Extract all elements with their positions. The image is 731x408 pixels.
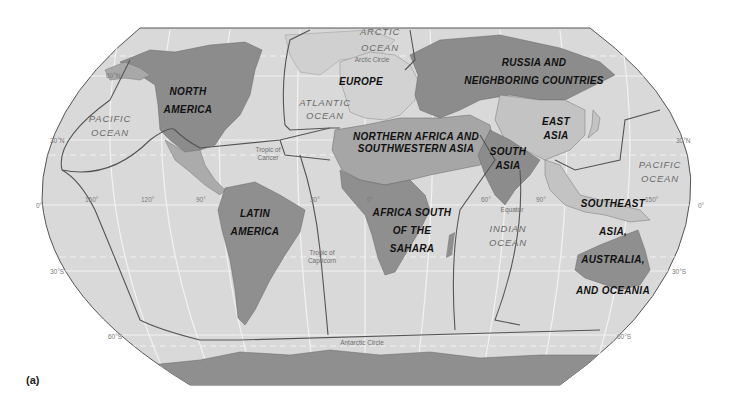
label-antarctic-circle: Antarctic Circle — [340, 339, 384, 346]
coord-30n-west: 30°N — [50, 137, 65, 144]
region-label-latin-america: LATIN — [240, 208, 271, 219]
region-label-east-asia: ASIA — [542, 130, 568, 141]
label-tropic-capricorn: Tropic of — [309, 249, 334, 257]
region-label-russia: RUSSIA AND — [502, 57, 566, 68]
region-label-seasia-oceania: AUSTRALIA, — [580, 254, 645, 265]
figure-label: (a) — [26, 374, 39, 386]
coord-90e: 90° — [536, 196, 546, 203]
coord-90w: 90° — [196, 196, 206, 203]
ocean-label-arctic: OCEAN — [361, 42, 399, 53]
coord-0-east: 0° — [698, 202, 705, 209]
ocean-label-indian: INDIAN — [490, 223, 527, 234]
region-label-seasia-oceania: ASIA, — [598, 226, 627, 237]
region-label-south-asia: ASIA — [494, 160, 520, 171]
label-equator: Equator — [501, 206, 525, 214]
region-label-nafrica-swasia: SOUTHWESTERN ASIA — [358, 143, 474, 154]
region-label-subsaharan-africa: SAHARA — [390, 243, 435, 254]
coord-60s-east: 60°S — [617, 333, 632, 340]
land-new-zealand — [660, 285, 675, 308]
region-label-east-asia: EAST — [542, 116, 570, 127]
coord-30s-west: 30°S — [50, 268, 65, 275]
world-regions-map: ARCTIC OCEAN ATLANTIC OCEAN PACIFIC OCEA… — [0, 0, 731, 408]
ocean-label-atlantic: OCEAN — [306, 110, 344, 121]
coord-30w: 30° — [310, 196, 320, 203]
label-arctic-circle: Arctic Circle — [355, 56, 390, 63]
coord-0-lon: 0° — [367, 196, 374, 203]
region-label-seasia-oceania: AND OCEANIA — [575, 285, 650, 296]
region-label-subsaharan-africa: AFRICA SOUTH — [372, 207, 452, 218]
coord-30s-east: 30°S — [672, 268, 687, 275]
region-label-latin-america: AMERICA — [230, 226, 280, 237]
region-label-nafrica-swasia: NORTHERN AFRICA AND — [353, 131, 479, 142]
ocean-label-indian: OCEAN — [489, 237, 527, 248]
land-antarctica — [150, 350, 700, 408]
coord-150w: 150° — [85, 196, 99, 203]
coord-150e: 150° — [645, 196, 659, 203]
region-label-seasia-oceania: SOUTHEAST — [581, 198, 646, 209]
region-label-europe: EUROPE — [339, 76, 383, 87]
coord-60n: 60°N — [106, 72, 121, 79]
region-label-russia: NEIGHBORING COUNTRIES — [464, 75, 604, 86]
coord-60e: 60° — [481, 196, 491, 203]
coord-120w: 120° — [141, 196, 155, 203]
ocean-label-atlantic: ATLANTIC — [298, 97, 351, 108]
label-tropic-cancer: Cancer — [258, 154, 280, 161]
ocean-label-pacific-east: OCEAN — [641, 173, 679, 184]
region-label-north-america: AMERICA — [163, 104, 213, 115]
coord-60s-west: 60°S — [108, 333, 123, 340]
region-label-south-asia: SOUTH — [490, 146, 527, 157]
label-tropic-cancer: Tropic of — [255, 146, 280, 154]
region-label-north-america: NORTH — [170, 86, 207, 97]
ocean-label-pacific-east: PACIFIC — [639, 159, 681, 170]
ocean-label-pacific-west: PACIFIC — [89, 113, 131, 124]
coord-30n-east: 30°N — [676, 137, 691, 144]
label-tropic-capricorn: Capricorn — [308, 257, 337, 265]
region-label-subsaharan-africa: OF THE — [393, 225, 431, 236]
ocean-label-arctic: ARCTIC — [359, 26, 400, 37]
ocean-label-pacific-west: OCEAN — [91, 127, 129, 138]
coord-0-west: 0° — [36, 202, 43, 209]
